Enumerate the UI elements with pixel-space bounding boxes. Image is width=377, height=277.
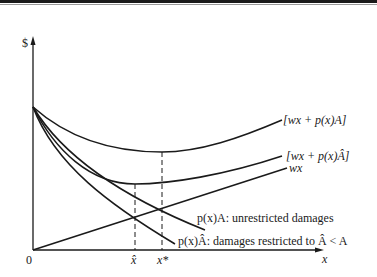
diagram-canvas: $ x 0 x̂ x* [wx + p(x)A] [wx + p(x)Â] wx… bbox=[0, 0, 377, 277]
curve-total-restricted bbox=[33, 107, 282, 184]
x-axis-label: x bbox=[321, 252, 328, 266]
y-axis-label: $ bbox=[22, 36, 28, 50]
x-hat-label: x̂ bbox=[130, 253, 137, 267]
origin-label: 0 bbox=[26, 253, 32, 267]
curve-total-unrestricted bbox=[33, 107, 282, 152]
x-star-label: x* bbox=[156, 253, 168, 267]
label-total-unrestricted: [wx + p(x)A] bbox=[283, 113, 347, 127]
label-care-cost: wx bbox=[289, 161, 303, 175]
label-damages-restricted: p(x)Â: damages restricted to Â < A bbox=[178, 234, 348, 248]
label-damages-unrestricted: p(x)A: unrestricted damages bbox=[197, 211, 334, 225]
curve-damages-restricted bbox=[33, 107, 175, 244]
y-axis-arrow-icon bbox=[31, 36, 36, 45]
